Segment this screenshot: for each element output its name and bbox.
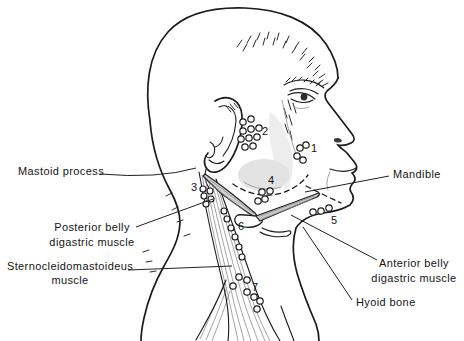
scm-anterior-edge — [216, 179, 280, 341]
lymph-node — [232, 234, 238, 240]
submandibular-gland — [238, 159, 290, 191]
lymph-node — [244, 277, 250, 283]
lymph-node — [248, 126, 254, 132]
mouth-line — [330, 168, 356, 171]
ear-lobe — [209, 160, 224, 164]
ear-concha-hatching — [226, 103, 238, 112]
lymph-node — [207, 188, 213, 194]
thyroid-cartilage-line — [260, 228, 291, 237]
face-profile — [293, 78, 356, 341]
lymph-node — [259, 189, 265, 195]
lymph-node — [230, 283, 236, 289]
lymph-node — [248, 116, 254, 122]
submandibular-gland-body — [238, 159, 290, 191]
lymph-node — [242, 144, 248, 150]
lymph-node — [240, 119, 246, 125]
label-scm-line2: muscle — [51, 274, 88, 286]
lymph-node — [300, 157, 306, 163]
lymph-node — [310, 209, 316, 215]
lymph-node — [251, 294, 257, 300]
lymph-node — [297, 145, 303, 151]
node-group-number-1: 1 — [311, 142, 317, 154]
eyebrow — [284, 77, 324, 88]
ear-antihelix — [215, 137, 223, 147]
lymph-node — [236, 244, 242, 250]
hairline-strokes — [237, 32, 328, 86]
lymph-node — [257, 298, 263, 304]
nostril-icon — [334, 138, 342, 143]
lymph-node-cluster-2: 2 — [238, 116, 268, 150]
node-group-number-5: 5 — [331, 214, 337, 226]
cranium-outline — [148, 8, 338, 121]
figure-canvas: 1 2 3 4 5 — [0, 0, 464, 341]
node-group-number-3: 3 — [191, 181, 197, 193]
label-mandible: Mandible — [393, 168, 441, 180]
ear-tragus — [206, 142, 215, 158]
label-hyoid-bone: Hyoid bone — [356, 296, 416, 308]
mastoid-leader-line — [100, 168, 196, 176]
lymph-node — [228, 225, 234, 231]
posterior-digastric-leader-line — [136, 199, 213, 227]
lymph-node — [267, 188, 273, 194]
lymph-node — [201, 193, 207, 199]
lymph-node — [254, 134, 260, 140]
lymph-node — [250, 143, 256, 149]
lymph-node-cluster-1: 1 — [294, 142, 317, 163]
lymph-node — [224, 216, 230, 222]
label-anterior-digastric-line1: Anterior belly — [379, 257, 449, 269]
label-mastoid-process: Mastoid process — [18, 165, 104, 177]
lymph-node — [254, 306, 260, 312]
ear-inner-helix — [219, 106, 236, 156]
label-posterior-digastric-line2: digastric muscle — [49, 236, 134, 248]
eye — [288, 89, 318, 109]
lymph-node — [236, 274, 242, 280]
lymph-node — [326, 205, 332, 211]
node-group-number-7: 7 — [252, 281, 258, 293]
ear — [204, 98, 242, 188]
lymph-node — [240, 128, 246, 134]
under-eye-line — [293, 107, 309, 109]
lymph-node — [238, 136, 244, 142]
label-posterior-digastric-line1: Posterior belly — [54, 221, 130, 233]
lymph-node — [208, 196, 214, 202]
lymph-node — [255, 198, 261, 204]
lymph-node — [244, 289, 250, 295]
mandible-leader-line — [305, 176, 389, 192]
lymph-node — [200, 186, 206, 192]
node-group-number-4: 4 — [268, 174, 274, 186]
lymph-node — [262, 196, 268, 202]
iris — [301, 94, 308, 101]
lymph-node-cluster-5: 5 — [310, 205, 337, 226]
lymph-node — [239, 254, 245, 260]
scm-leader-line — [128, 266, 232, 270]
back-of-head-outline — [141, 121, 180, 341]
hyoid-leader-line — [303, 227, 352, 300]
lymph-node — [294, 153, 300, 159]
label-anterior-digastric-line2: digastric muscle — [371, 272, 456, 284]
label-scm-line1: Sternocleidomastoideus — [7, 260, 133, 272]
node-group-number-2: 2 — [262, 125, 268, 137]
lymph-node — [246, 135, 252, 141]
lymph-node — [221, 208, 227, 214]
node-group-number-6: 6 — [238, 220, 244, 232]
lymph-node — [318, 208, 324, 214]
anatomy-diagram: 1 2 3 4 5 — [0, 0, 464, 341]
lower-neck-line — [281, 306, 294, 341]
lymph-node — [303, 142, 309, 148]
